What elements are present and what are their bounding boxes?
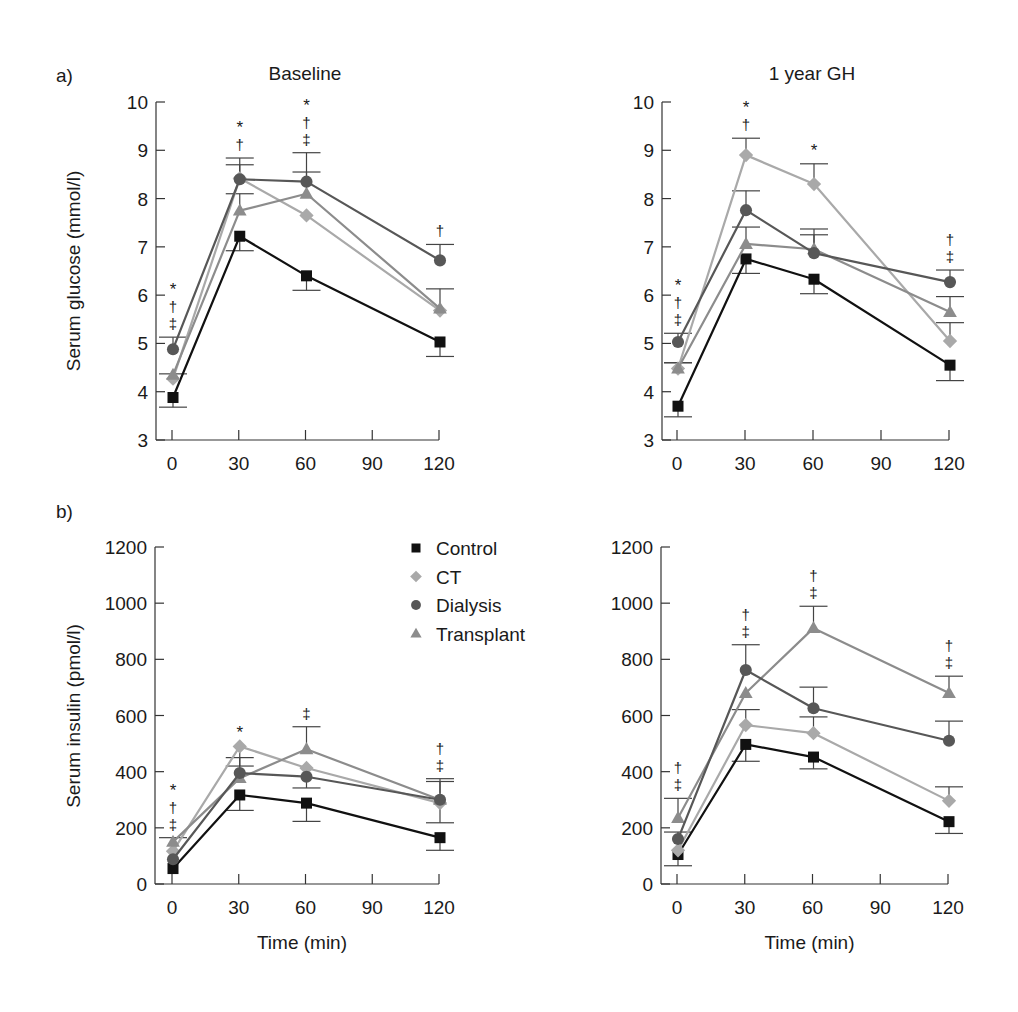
x-tick-label: 120 <box>423 897 455 918</box>
significance-mark: * <box>236 118 243 137</box>
legend-label: Dialysis <box>436 595 501 616</box>
control-marker-icon <box>234 789 245 800</box>
transplant-marker-icon <box>300 742 314 754</box>
ct-marker-icon <box>299 208 313 222</box>
chart-title: Baseline <box>269 63 342 84</box>
y-tick-label: 9 <box>137 140 148 161</box>
legend-control-marker-icon <box>412 544 421 553</box>
dialysis-marker-icon <box>434 254 446 266</box>
y-tick-label: 800 <box>115 649 147 670</box>
chart-insulin-baseline: 0200400600800100012000306090120Serum ins… <box>63 537 455 953</box>
significance-mark: † <box>674 759 682 776</box>
dialysis-marker-icon <box>740 204 752 216</box>
legend: ControlCTDialysisTransplant <box>410 538 526 645</box>
y-tick-label: 600 <box>621 706 653 727</box>
dialysis-marker-icon <box>167 343 179 355</box>
significance-mark: * <box>811 141 818 160</box>
x-axis-label: Time (min) <box>764 932 854 953</box>
significance-mark: † <box>742 606 750 623</box>
significance-mark: † <box>302 114 310 131</box>
dialysis-marker-icon <box>300 771 312 783</box>
y-tick-label: 0 <box>136 874 147 895</box>
significance-mark: ‡ <box>945 654 953 671</box>
control-marker-icon <box>301 798 312 809</box>
dialysis-marker-icon <box>943 735 955 747</box>
x-tick-label: 30 <box>228 897 249 918</box>
significance-mark: † <box>674 294 682 311</box>
legend-item-ct: CT <box>410 567 462 588</box>
chart-glucose-baseline: 3456789100306090120BaselineSerum glucose… <box>63 63 455 474</box>
control-marker-icon <box>301 270 312 281</box>
y-tick-label: 8 <box>137 189 148 210</box>
legend-item-control: Control <box>412 538 498 559</box>
y-tick-label: 10 <box>127 92 148 113</box>
significance-mark: † <box>436 222 444 239</box>
ct-marker-icon <box>942 794 956 808</box>
significance-mark: ‡ <box>946 248 954 265</box>
x-tick-label: 90 <box>362 897 383 918</box>
x-tick-label: 120 <box>423 453 455 474</box>
legend-dialysis-marker-icon <box>411 600 421 610</box>
y-tick-label: 5 <box>137 333 148 354</box>
control-marker-icon <box>234 231 245 242</box>
significance-mark: † <box>436 740 444 757</box>
control-marker-icon <box>809 274 820 285</box>
significance-mark: ‡ <box>169 816 177 833</box>
legend-transplant-marker-icon <box>410 628 421 638</box>
series-dialysis <box>167 173 446 355</box>
legend-label: CT <box>436 567 462 588</box>
y-tick-label: 7 <box>137 237 148 258</box>
dialysis-marker-icon <box>944 276 956 288</box>
legend-item-transplant: Transplant <box>410 624 525 645</box>
transplant-marker-icon <box>739 237 753 249</box>
ct-marker-icon <box>806 726 820 740</box>
dialysis-marker-icon <box>434 794 446 806</box>
x-tick-label: 60 <box>802 897 823 918</box>
y-tick-label: 1000 <box>611 593 653 614</box>
x-tick-label: 120 <box>932 897 964 918</box>
dialysis-marker-icon <box>167 853 179 865</box>
dialysis-marker-icon <box>300 176 312 188</box>
y-tick-label: 5 <box>643 333 654 354</box>
x-axis-label: Time (min) <box>257 932 347 953</box>
y-tick-label: 1200 <box>611 537 653 558</box>
series-line <box>173 179 440 349</box>
control-marker-icon <box>945 360 956 371</box>
y-tick-label: 400 <box>621 762 653 783</box>
control-marker-icon <box>168 392 179 403</box>
x-tick-label: 120 <box>933 453 965 474</box>
significance-mark: ‡ <box>436 757 444 774</box>
chart-title: 1 year GH <box>769 63 856 84</box>
y-tick-label: 3 <box>643 430 654 451</box>
control-marker-icon <box>944 816 955 827</box>
significance-mark: † <box>169 799 177 816</box>
significance-mark: ‡ <box>674 776 682 793</box>
y-tick-label: 600 <box>115 706 147 727</box>
series-control <box>168 789 446 874</box>
significance-mark: * <box>236 723 243 742</box>
x-tick-label: 30 <box>228 453 249 474</box>
control-marker-icon <box>740 739 751 750</box>
significance-mark: † <box>742 116 750 133</box>
series-control <box>673 739 955 860</box>
x-tick-label: 60 <box>802 453 823 474</box>
y-tick-label: 400 <box>115 762 147 783</box>
dialysis-marker-icon <box>672 833 684 845</box>
control-marker-icon <box>673 401 684 412</box>
chart-insulin-1year: 0200400600800100012000306090120Time (min… <box>611 537 964 953</box>
significance-mark: ‡ <box>302 705 310 722</box>
significance-mark: * <box>170 280 177 299</box>
significance-mark: † <box>945 637 953 654</box>
legend-ct-marker-icon <box>410 571 422 583</box>
dialysis-marker-icon <box>807 702 819 714</box>
x-tick-label: 60 <box>295 897 316 918</box>
dialysis-marker-icon <box>740 664 752 676</box>
significance-mark: ‡ <box>302 131 310 148</box>
y-axis-label: Serum glucose (mmol/l) <box>63 171 84 372</box>
significance-mark: ‡ <box>809 584 817 601</box>
y-axis-label: Serum insulin (pmol/l) <box>63 624 84 808</box>
panel-label-b: b) <box>56 501 73 522</box>
transplant-marker-icon <box>300 187 314 199</box>
significance-mark: ‡ <box>169 315 177 332</box>
y-tick-label: 0 <box>642 874 653 895</box>
